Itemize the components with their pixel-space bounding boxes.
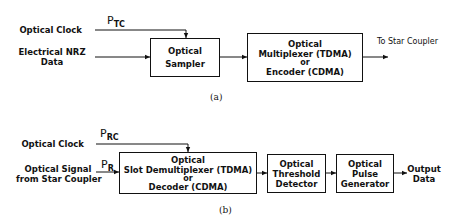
optical-sampler-block: Optical Sampler — [150, 38, 220, 77]
pr-signal-label: PR — [101, 159, 114, 174]
to-star-coupler-label: To Star Coupler — [377, 37, 438, 47]
signal-label-line2: from Star Coupler — [16, 174, 100, 184]
output-label-line1: Output — [406, 164, 442, 174]
optical-clock-label-b: Optical Clock — [12, 139, 84, 149]
signal-label-line1: Optical Signal — [16, 164, 100, 174]
optical-signal-from-star-coupler-label: Optical Signal from Star Coupler — [16, 164, 100, 184]
caption-a: (a) — [210, 92, 222, 102]
caption-b: (b) — [219, 205, 232, 215]
data-label-line1: Electrical NRZ — [16, 47, 88, 57]
optical-threshold-detector-block: Optical Threshold Detector — [267, 154, 326, 193]
optical-clock-label-a: Optical Clock — [10, 25, 82, 35]
optical-pulse-generator-block: Optical Pulse Generator — [336, 154, 394, 193]
output-data-label: Output Data — [406, 164, 442, 184]
data-label-line2: Data — [16, 57, 88, 67]
prc-signal-label: PRC — [100, 128, 119, 143]
output-label-line2: Data — [406, 174, 442, 184]
ptc-signal-label: PTC — [107, 15, 125, 30]
electrical-nrz-data-label: Electrical NRZ Data — [16, 47, 88, 67]
slot-demultiplexer-decoder-block: Optical Slot Demultiplexer (TDMA) or Dec… — [119, 152, 257, 194]
optical-multiplexer-encoder-block: Optical Multiplexer (TDMA) or Encoder (C… — [247, 33, 363, 82]
